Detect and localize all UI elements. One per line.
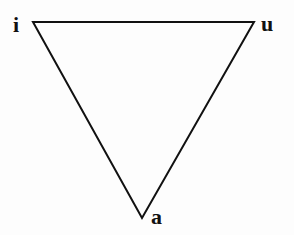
vertex-label-a: a <box>151 204 162 229</box>
vertex-label-i: i <box>13 12 19 37</box>
vowel-triangle-diagram: i u a <box>0 0 294 235</box>
triangle-svg: i u a <box>0 0 294 235</box>
triangle-outline <box>33 22 254 218</box>
vertex-label-u: u <box>261 11 273 36</box>
